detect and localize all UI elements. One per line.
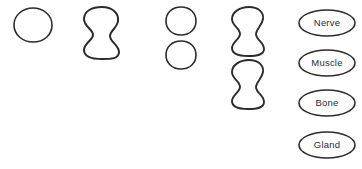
label-group: Nerve Muscle Bone Gland xyxy=(299,10,355,158)
peanut-shape[interactable] xyxy=(232,60,264,109)
label-gland[interactable]: Gland xyxy=(299,132,355,158)
diagram-svg: Nerve Muscle Bone Gland xyxy=(0,0,362,169)
circle-shape[interactable] xyxy=(166,7,196,35)
shape-group-column-3 xyxy=(166,7,196,69)
circle-shape[interactable] xyxy=(166,41,196,69)
label-text: Bone xyxy=(316,97,339,108)
label-bone[interactable]: Bone xyxy=(299,90,355,116)
label-text: Nerve xyxy=(314,17,340,28)
label-text: Muscle xyxy=(311,57,342,68)
label-muscle[interactable]: Muscle xyxy=(299,50,355,76)
label-text: Gland xyxy=(314,139,340,150)
peanut-shape[interactable] xyxy=(232,7,264,56)
label-nerve[interactable]: Nerve xyxy=(299,10,355,36)
circle-shape[interactable] xyxy=(14,8,52,42)
shape-group-column-2 xyxy=(84,7,119,59)
peanut-shape[interactable] xyxy=(84,7,119,59)
diagram-canvas: Nerve Muscle Bone Gland xyxy=(0,0,362,169)
shape-group-column-4 xyxy=(232,7,264,109)
shape-group-column-1 xyxy=(14,8,52,42)
